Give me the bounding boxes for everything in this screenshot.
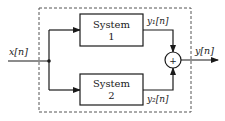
y1-signal-path xyxy=(143,30,173,52)
y1-signal-label: y₁[n] xyxy=(146,16,169,26)
sum-plus-symbol: + xyxy=(169,56,177,66)
parallel-system-diagram: System 1 System 2 + x[n] y[n] y₁[n] y₂[n… xyxy=(0,0,225,121)
input-signal-label: x[n] xyxy=(9,46,28,57)
y2-signal-path xyxy=(143,68,173,90)
system1-label-line2: 1 xyxy=(108,31,114,42)
system2-label-line2: 2 xyxy=(108,90,114,101)
system2-label-line1: System xyxy=(93,78,131,89)
y2-signal-label: y₂[n] xyxy=(146,94,169,104)
output-signal-label: y[n] xyxy=(194,45,214,56)
system1-label-line1: System xyxy=(93,19,131,30)
